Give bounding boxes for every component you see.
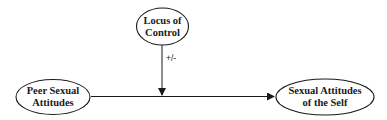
node-sexual-attitudes-of-self: Sexual Attitudes of the Self xyxy=(276,79,374,115)
node-locus-of-control: Locus of Control xyxy=(137,8,189,45)
moderation-diagram: +/- Locus of Control Peer Sexual Attitud… xyxy=(0,0,387,120)
locus-label-line-2: Control xyxy=(145,27,180,38)
node-peer-sexual-attitudes: Peer Sexual Attitudes xyxy=(16,80,90,115)
self-label-line-1: Sexual Attitudes xyxy=(288,85,361,96)
locus-label-line-1: Locus of xyxy=(143,15,182,26)
peer-label-line-1: Peer Sexual xyxy=(27,85,80,96)
self-label-line-2: of the Self xyxy=(303,97,348,108)
moderation-label: +/- xyxy=(166,53,176,63)
peer-label-line-2: Attitudes xyxy=(32,97,73,108)
